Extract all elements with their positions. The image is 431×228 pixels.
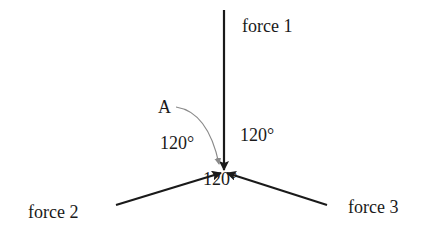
force-diagram: force 1 force 2 force 3 A 120° 120° 120° xyxy=(0,0,431,228)
force-3-label: force 3 xyxy=(348,198,398,216)
force-1-label: force 1 xyxy=(242,17,292,35)
force-3-arrow xyxy=(227,173,327,205)
point-a-label: A xyxy=(158,98,171,116)
force-diagram-graphic xyxy=(0,0,431,228)
angle-label-bottom: 120° xyxy=(203,170,237,188)
force-2-label: force 2 xyxy=(28,203,78,221)
angle-label-left: 120° xyxy=(160,134,194,152)
angle-label-right: 120° xyxy=(240,126,274,144)
